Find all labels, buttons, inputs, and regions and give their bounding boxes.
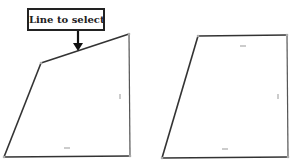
vertex-handle[interactable] bbox=[128, 33, 131, 36]
vertex-handle[interactable] bbox=[40, 62, 43, 65]
left-quadrilateral bbox=[3, 33, 132, 159]
vertex-handle[interactable] bbox=[161, 157, 164, 160]
vertex-handle[interactable] bbox=[129, 155, 132, 158]
right-edge-top[interactable] bbox=[198, 35, 287, 36]
vertex-handle[interactable] bbox=[197, 35, 200, 38]
right-edge-left[interactable] bbox=[162, 36, 198, 158]
callout-arrow bbox=[73, 29, 83, 51]
left-edge-left[interactable] bbox=[4, 63, 41, 157]
right-quadrilateral bbox=[161, 34, 290, 160]
left-edge-right[interactable] bbox=[129, 34, 130, 156]
callout-label: Line to select bbox=[27, 8, 105, 31]
vertex-handle[interactable] bbox=[287, 156, 290, 159]
vertex-handle[interactable] bbox=[286, 34, 289, 37]
right-edge-right[interactable] bbox=[287, 35, 288, 157]
left-edge-bottom[interactable] bbox=[4, 156, 130, 157]
left-edge-top[interactable] bbox=[41, 34, 129, 63]
vertex-handle[interactable] bbox=[3, 156, 6, 159]
right-edge-bottom[interactable] bbox=[162, 157, 288, 158]
